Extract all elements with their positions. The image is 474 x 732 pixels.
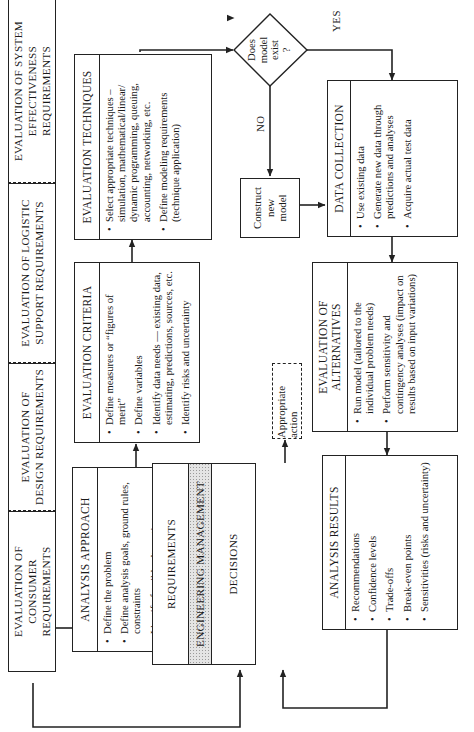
alternatives-title-line1: EVALUATION OF: [317, 300, 330, 393]
appropriate-action-box: Appropriate action: [272, 363, 302, 439]
analysis-results-list: Recommendations Confidence levels Trade-…: [350, 462, 431, 621]
engineering-management-block: REQUIREMENTS ENGINEERING MANAGEMENT DECI…: [152, 463, 256, 665]
logistic-requirements-box: EVALUATION OF LOGISTIC SUPPORT REQUIREME…: [8, 183, 56, 363]
construct-line2: new: [264, 187, 277, 229]
evaluation-of-alternatives-title: EVALUATION OF ALTERNATIVES: [313, 263, 348, 431]
logistic-requirements-line1: EVALUATION OF LOGISTIC: [18, 199, 32, 346]
design-requirements-line1: EVALUATION OF: [18, 369, 32, 505]
consumer-requirements-box: EVALUATION OF CONSUMER REQUIREMENTS: [8, 511, 56, 672]
analysis-results-box: ANALYSIS RESULTS Recommendations Confide…: [322, 455, 458, 630]
construct-new-model-box: Construct new model: [240, 178, 300, 238]
list-item: Define variables: [133, 269, 145, 434]
data-collection-box: DATA COLLECTION Use existing data Genera…: [327, 80, 458, 237]
engineering-management-label: ENGINEERING MANAGEMENT: [188, 464, 212, 664]
requirements-label: REQUIREMENTS: [153, 464, 188, 664]
no-label: NO: [254, 115, 266, 132]
evaluation-criteria-title: EVALUATION CRITERIA: [75, 263, 100, 442]
list-item: Recommendations: [350, 462, 362, 621]
list-item: Run model (tailored to the individual pr…: [352, 269, 376, 423]
system-effectiveness-line2: EFFECTIVENESS REQUIREMENTS: [25, 3, 53, 179]
diamond-line4: ?: [281, 20, 293, 80]
evaluation-techniques-list: Select appropriate techniques – simulati…: [104, 61, 182, 231]
system-effectiveness-line1: EVALUATION OF SYSTEM: [11, 3, 25, 179]
analysis-approach-title: ANALYSIS APPROACH: [73, 468, 98, 651]
list-item: Trade-offs: [384, 462, 396, 621]
list-item: Define the problem: [102, 474, 114, 643]
list-item: Perform sensitivity and contingency anal…: [381, 269, 418, 423]
model-exists-question: Does model exist ?: [246, 20, 292, 80]
design-requirements-line2: DESIGN REQUIREMENTS: [32, 369, 46, 505]
list-item: Define measures or “figures of merit”: [104, 269, 128, 434]
diamond-line3: exist: [269, 20, 281, 80]
evaluation-criteria-list: Define measures or “figures of merit” De…: [104, 269, 192, 434]
list-item: Confidence levels: [367, 462, 379, 621]
yes-label: YES: [330, 10, 342, 32]
consumer-requirements-line1: EVALUATION OF: [11, 515, 25, 668]
list-item: Define analysis goals, ground rules, con…: [119, 474, 143, 643]
consumer-requirements-line2: CONSUMER REQUIREMENTS: [25, 515, 53, 668]
list-item: Use existing data: [355, 87, 367, 228]
evaluation-techniques-box: EVALUATION TECHNIQUES Select appropriate…: [74, 54, 212, 240]
list-item: Select appropriate techniques – simulati…: [104, 61, 153, 231]
data-collection-title: DATA COLLECTION: [328, 81, 351, 236]
logistic-requirements-line2: SUPPORT REQUIREMENTS: [32, 199, 46, 346]
diamond-line1: Does: [246, 20, 258, 80]
list-item: Generate new data through predictions an…: [372, 87, 396, 228]
list-item: Identify risks and uncertainty: [180, 269, 192, 434]
evaluation-of-alternatives-list: Run model (tailored to the individual pr…: [352, 269, 418, 423]
evaluation-of-alternatives-box: EVALUATION OF ALTERNATIVES Run model (ta…: [312, 262, 458, 432]
list-item: Identify data needs — existing data, est…: [151, 269, 175, 434]
requirements-evaluation-band: EVALUATION OF CONSUMER REQUIREMENTS EVAL…: [8, 0, 56, 672]
analysis-results-title: ANALYSIS RESULTS: [323, 456, 346, 629]
flowchart-canvas: EVALUATION OF CONSUMER REQUIREMENTS EVAL…: [0, 0, 474, 732]
diamond-line2: model: [258, 20, 270, 80]
construct-line3: model: [276, 187, 289, 229]
alternatives-title-line2: ALTERNATIVES: [330, 303, 343, 391]
system-effectiveness-requirements-box: EVALUATION OF SYSTEM EFFECTIVENESS REQUI…: [8, 0, 56, 183]
construct-line1: Construct: [251, 187, 264, 229]
design-requirements-box: EVALUATION OF DESIGN REQUIREMENTS: [8, 363, 56, 511]
list-item: Break-even points: [402, 462, 414, 621]
data-collection-list: Use existing data Generate new data thro…: [355, 87, 414, 228]
list-item: Define modeling requirements (technique …: [158, 61, 182, 231]
list-item: Sensitivities (risks and uncertainty): [419, 462, 431, 621]
decisions-label: DECISIONS: [210, 464, 255, 664]
list-item: Acquire actual test data: [402, 87, 414, 228]
evaluation-techniques-title: EVALUATION TECHNIQUES: [75, 55, 100, 239]
evaluation-criteria-box: EVALUATION CRITERIA Define measures or “…: [74, 262, 200, 443]
